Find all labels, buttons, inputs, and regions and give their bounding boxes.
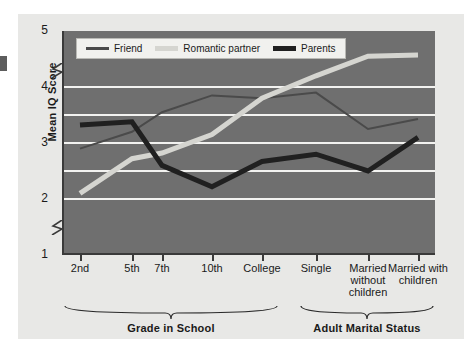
chart-legend: Friend Romantic partner Parents [76,38,346,59]
y-tick-label-2: 2 [26,191,48,205]
y-tick-label-3: 3 [26,135,48,149]
x-tick-2 [162,255,164,261]
x-tick-1 [132,255,134,261]
series-lines [62,31,435,255]
legend-item-parents: Parents [273,43,335,54]
group-bracket-label-grade-in-school: Grade in School [64,322,278,334]
group-bracket-0 [64,306,278,319]
legend-line-icon-parents [273,45,296,52]
x-category-label-married-with-children: Married with children [383,262,453,286]
group-bracket-1 [300,306,434,319]
x-tick-7 [418,255,420,261]
legend-label-friend: Friend [114,43,142,54]
y-axis-break-mark [50,63,63,78]
y-tick-label-4: 4 [26,79,48,93]
legend-item-romantic-partner: Romantic partner [155,43,260,54]
legend-item-friend: Friend [86,43,142,54]
legend-line-icon-romantic-partner [155,45,178,52]
y-axis-break-mark [50,220,63,235]
group-bracket-label-adult-marital-status: Adult Marital Status [300,322,434,334]
plot-area [62,31,435,255]
x-tick-0 [80,255,82,261]
y-tick-label-5: 5 [26,23,48,37]
legend-line-icon-friend [86,45,109,52]
x-tick-3 [212,255,214,261]
x-tick-6 [368,255,370,261]
y-tick-label-1: 1 [26,247,48,261]
x-tick-4 [262,255,264,261]
x-tick-5 [316,255,318,261]
legend-label-parents: Parents [301,43,335,54]
legend-label-romantic-partner: Romantic partner [183,43,260,54]
chart-figure: Mean IQ Score 12345 2nd5th7th10thCollege… [0,0,475,356]
page-edge-mark [0,56,7,71]
